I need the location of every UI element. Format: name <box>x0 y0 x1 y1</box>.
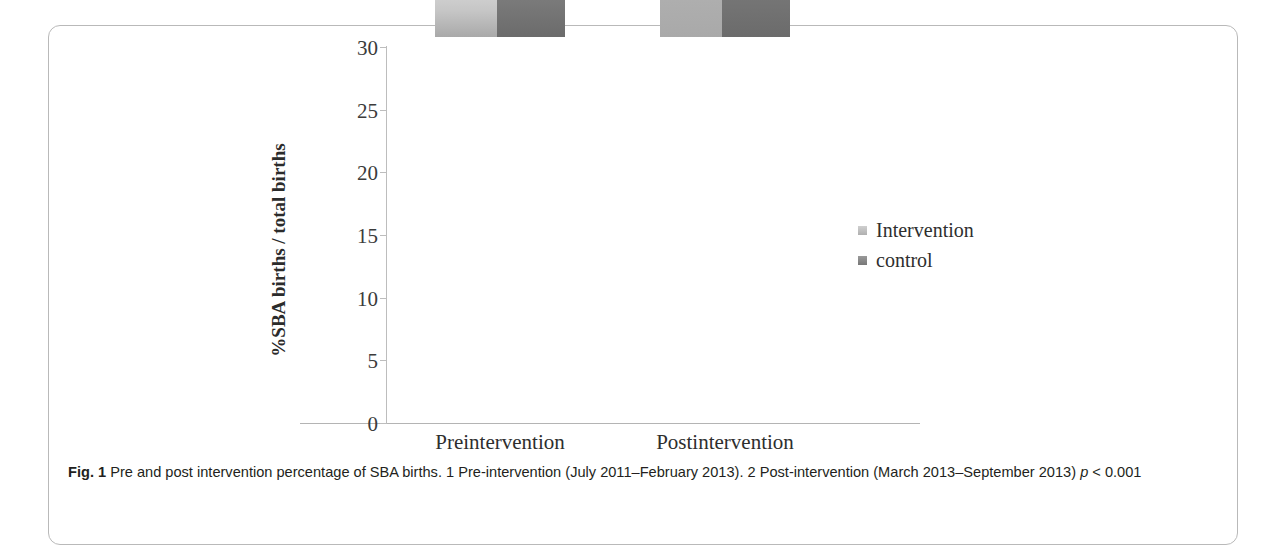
bar-group-postintervention <box>660 0 790 37</box>
bar-postintervention-intervention <box>660 0 722 37</box>
y-tick-mark-0 <box>380 423 387 424</box>
bar-preintervention-intervention <box>435 0 497 37</box>
legend-label-control: control <box>876 249 933 272</box>
figure-caption-label: Fig. 1 <box>68 464 106 480</box>
bar-chart: %SBA births / total births 30 25 20 15 1… <box>0 0 1274 460</box>
legend-swatch-intervention <box>858 226 867 235</box>
x-axis-label-postintervention: Postintervention <box>625 430 825 455</box>
figure-caption-stat-value: < 0.001 <box>1088 464 1141 480</box>
y-axis-label: %SBA births / total births <box>268 110 290 390</box>
chart-legend: Intervention control <box>858 215 974 275</box>
bar-group-preintervention <box>435 0 565 37</box>
y-tick-label-10: 10 <box>330 289 378 310</box>
figure-caption-text: Pre and post intervention percentage of … <box>106 464 1080 480</box>
bar-preintervention-control <box>497 0 565 37</box>
y-tick-label-5: 5 <box>330 351 378 372</box>
legend-label-intervention: Intervention <box>876 219 974 242</box>
y-tick-mark-20 <box>380 172 387 173</box>
y-tick-label-30: 30 <box>330 38 378 59</box>
y-tick-mark-5 <box>380 360 387 361</box>
legend-item-intervention: Intervention <box>858 215 974 245</box>
y-tick-mark-30 <box>380 47 387 48</box>
legend-item-control: control <box>858 245 974 275</box>
y-tick-mark-25 <box>380 110 387 111</box>
bar-postintervention-control <box>722 0 790 37</box>
y-tick-label-15: 15 <box>330 226 378 247</box>
y-tick-label-20: 20 <box>330 163 378 184</box>
legend-swatch-control <box>858 256 867 265</box>
y-tick-mark-15 <box>380 235 387 236</box>
y-tick-mark-10 <box>380 298 387 299</box>
figure-caption: Fig. 1 Pre and post intervention percent… <box>68 462 1228 482</box>
y-tick-label-0: 0 <box>330 414 378 435</box>
y-tick-label-25: 25 <box>330 101 378 122</box>
x-axis-line <box>300 423 920 424</box>
x-axis-label-preintervention: Preintervention <box>400 430 600 455</box>
